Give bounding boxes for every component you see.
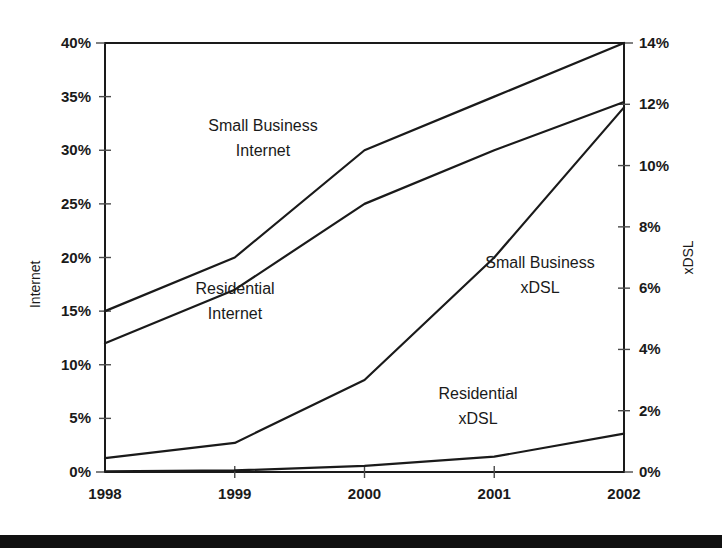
x-axis-tick-label: 2000 bbox=[348, 485, 381, 502]
x-axis-tick-label: 1999 bbox=[218, 485, 251, 502]
dual-axis-line-chart: 0%5%10%15%20%25%30%35%40% 0%2%4%6%8%10%1… bbox=[0, 0, 722, 512]
left-axis-tick-label: 5% bbox=[69, 409, 91, 426]
chart-figure: 0%5%10%15%20%25%30%35%40% 0%2%4%6%8%10%1… bbox=[0, 0, 722, 512]
series-annotation: ResidentialxDSL bbox=[438, 385, 517, 427]
left-axis-tick-label: 35% bbox=[61, 88, 91, 105]
right-axis-tick-label: 14% bbox=[639, 34, 669, 51]
left-axis-tick-label: 15% bbox=[61, 302, 91, 319]
right-axis-tick-label: 2% bbox=[639, 402, 661, 419]
series-line bbox=[105, 102, 624, 343]
left-axis-tick-label: 25% bbox=[61, 195, 91, 212]
left-axis: 0%5%10%15%20%25%30%35%40% bbox=[61, 34, 111, 480]
left-axis-tick-label: 40% bbox=[61, 34, 91, 51]
footer-rule bbox=[0, 535, 722, 548]
series-annotations: Small BusinessInternetResidentialInterne… bbox=[195, 117, 594, 427]
right-axis-tick-label: 12% bbox=[639, 95, 669, 112]
left-axis-tick-label: 20% bbox=[61, 249, 91, 266]
right-axis: 0%2%4%6%8%10%12%14% bbox=[618, 34, 669, 480]
x-axis-tick-label: 2002 bbox=[607, 485, 640, 502]
series-line bbox=[105, 434, 624, 472]
right-axis-tick-label: 6% bbox=[639, 279, 661, 296]
right-axis-tick-label: 4% bbox=[639, 340, 661, 357]
x-axis-tick-label: 1998 bbox=[88, 485, 121, 502]
right-axis-tick-label: 8% bbox=[639, 218, 661, 235]
x-axis-tick-label: 2001 bbox=[478, 485, 511, 502]
right-axis-tick-label: 10% bbox=[639, 157, 669, 174]
series-annotation: Small BusinessInternet bbox=[208, 117, 317, 159]
left-axis-title: Internet bbox=[27, 260, 43, 308]
left-axis-tick-label: 10% bbox=[61, 356, 91, 373]
right-axis-title: xDSL bbox=[680, 240, 696, 274]
left-axis-tick-label: 30% bbox=[61, 141, 91, 158]
series-annotation: Small BusinessxDSL bbox=[485, 254, 594, 296]
left-axis-tick-label: 0% bbox=[69, 463, 91, 480]
right-axis-tick-label: 0% bbox=[639, 463, 661, 480]
